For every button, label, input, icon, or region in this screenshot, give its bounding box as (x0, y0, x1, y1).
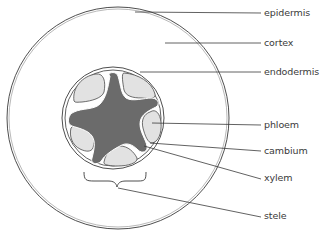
label-endodermis: endodermis (264, 67, 319, 77)
label-epidermis: epidermis (264, 8, 310, 18)
label-stele: stele (264, 211, 287, 221)
label-cortex: cortex (264, 38, 293, 48)
label-cambium: cambium (264, 146, 308, 156)
label-xylem: xylem (264, 173, 292, 183)
label-phloem: phloem (264, 120, 299, 130)
stele (62, 67, 164, 169)
